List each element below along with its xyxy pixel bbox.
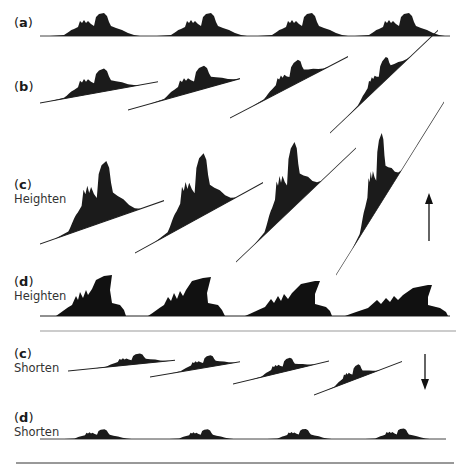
row-c-shorten-figures bbox=[68, 348, 402, 395]
transformation-diagram bbox=[0, 0, 466, 468]
row-a-figures bbox=[40, 13, 450, 36]
row-d-shorten-figures bbox=[40, 428, 446, 439]
arrow-up-icon bbox=[425, 193, 433, 241]
row-d-heighten-figures bbox=[40, 275, 450, 316]
arrow-down-icon bbox=[421, 354, 429, 390]
